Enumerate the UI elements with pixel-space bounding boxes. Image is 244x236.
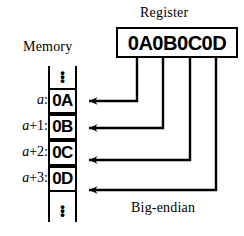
endianness-caption: Big-endian	[131, 201, 195, 215]
big-endian-diagram: Register 0A0B0C0D Memory ••• 0A 0B 0C 0D…	[0, 0, 244, 236]
connector-arrows	[0, 0, 244, 236]
connector-byte-1	[89, 58, 163, 128]
connector-byte-0	[89, 58, 137, 101]
connector-byte-3	[89, 58, 216, 190]
connector-byte-2	[89, 58, 190, 160]
